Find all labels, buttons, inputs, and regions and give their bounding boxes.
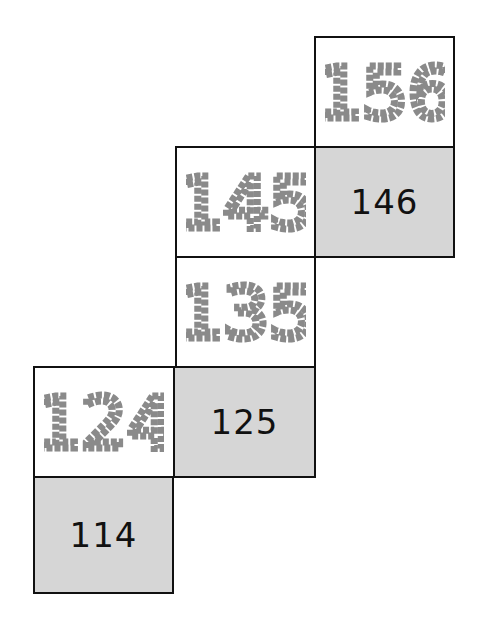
svg-text:145: 145: [186, 162, 306, 242]
dashed-number-145: 145: [186, 162, 306, 242]
cell-124: 124: [33, 366, 175, 478]
number-125: 125: [211, 402, 279, 442]
cell-145: 145: [175, 146, 316, 258]
dashed-number-135: 135: [186, 272, 306, 352]
dashed-number-156: 156: [325, 52, 445, 132]
cell-114: 114: [33, 476, 174, 594]
number-146: 146: [351, 182, 419, 222]
cell-125: 125: [173, 366, 316, 478]
cell-146: 146: [314, 146, 455, 258]
svg-text:124: 124: [44, 382, 164, 462]
number-114: 114: [70, 515, 138, 555]
cell-156: 156: [314, 36, 455, 148]
dashed-number-124: 124: [44, 382, 164, 462]
svg-text:135: 135: [186, 272, 306, 352]
cell-135: 135: [175, 256, 316, 368]
svg-text:156: 156: [325, 52, 445, 132]
